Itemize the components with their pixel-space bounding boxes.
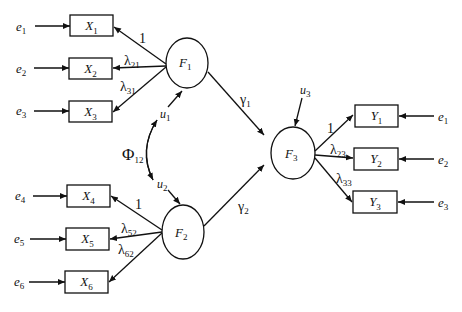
loading-label-lambda33: λ33 xyxy=(336,172,352,188)
indicator-y3-label: Y3 xyxy=(353,195,397,212)
error-label-e1-right: e1 xyxy=(438,110,448,126)
factor-label-f3: F3 xyxy=(285,147,297,163)
loading-label-lambda21: λ21 xyxy=(124,54,140,70)
loading-label-lambda23: λ23 xyxy=(330,143,346,159)
error-label-e4: e4 xyxy=(15,189,25,205)
disturbance-label-u2: u2 xyxy=(157,178,168,193)
error-label-e3-left: e3 xyxy=(16,104,26,120)
indicator-x5-label: X5 xyxy=(66,232,109,249)
indicator-x3-label: X3 xyxy=(69,105,112,122)
disturbance-label-u3: u3 xyxy=(300,84,311,99)
loading-label-y1: 1 xyxy=(327,122,334,136)
loading-label-x4: 1 xyxy=(135,198,142,212)
error-label-e6: e6 xyxy=(14,275,24,291)
path-label-gamma1: γ1 xyxy=(240,93,251,109)
error-label-e5: e5 xyxy=(14,232,24,248)
disturbance-label-u1: u1 xyxy=(160,108,171,123)
loading-label-x1: 1 xyxy=(139,32,146,46)
loading-label-lambda52: λ52 xyxy=(121,222,137,238)
error-label-e1-left: e1 xyxy=(16,20,26,36)
factor-label-f2: F2 xyxy=(175,226,187,242)
indicator-y1-label: Y1 xyxy=(355,109,398,126)
indicator-x2-label: X2 xyxy=(69,62,112,79)
error-label-e2-right: e2 xyxy=(438,153,448,169)
loading-label-lambda31: λ31 xyxy=(120,80,136,96)
error-label-e3-right: e3 xyxy=(438,196,448,212)
loading-label-lambda62: λ62 xyxy=(118,243,134,259)
error-label-e2-left: e2 xyxy=(16,62,26,78)
indicator-x4-label: X4 xyxy=(67,189,110,206)
path-label-gamma2: γ2 xyxy=(238,200,249,216)
indicator-x6-label: X6 xyxy=(65,275,108,292)
covariance-label-phi12: Φ12 xyxy=(122,146,143,165)
indicator-y2-label: Y2 xyxy=(354,152,398,169)
indicator-x1-label: X1 xyxy=(70,19,113,36)
factor-label-f1: F1 xyxy=(179,56,191,72)
